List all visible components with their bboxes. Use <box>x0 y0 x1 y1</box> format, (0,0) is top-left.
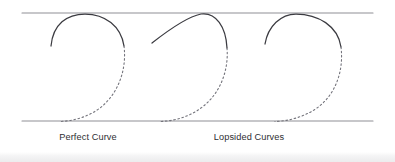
curve-1-dashed-tail <box>60 46 125 122</box>
diagram-canvas <box>0 0 395 162</box>
page-edge-band <box>0 152 395 162</box>
curve-2-group <box>152 14 227 122</box>
curve-1-solid-arc <box>51 14 124 46</box>
curve-3-dashed-tail <box>275 47 342 122</box>
curve-3-solid-arc <box>265 14 341 47</box>
curve-1-group <box>51 14 125 122</box>
curve-diagram-figure: Perfect Curve Lopsided Curves <box>0 0 395 162</box>
curve-2-solid-arc <box>152 14 227 48</box>
curve-3-group <box>265 14 342 122</box>
curve-2-dashed-tail <box>160 48 227 122</box>
